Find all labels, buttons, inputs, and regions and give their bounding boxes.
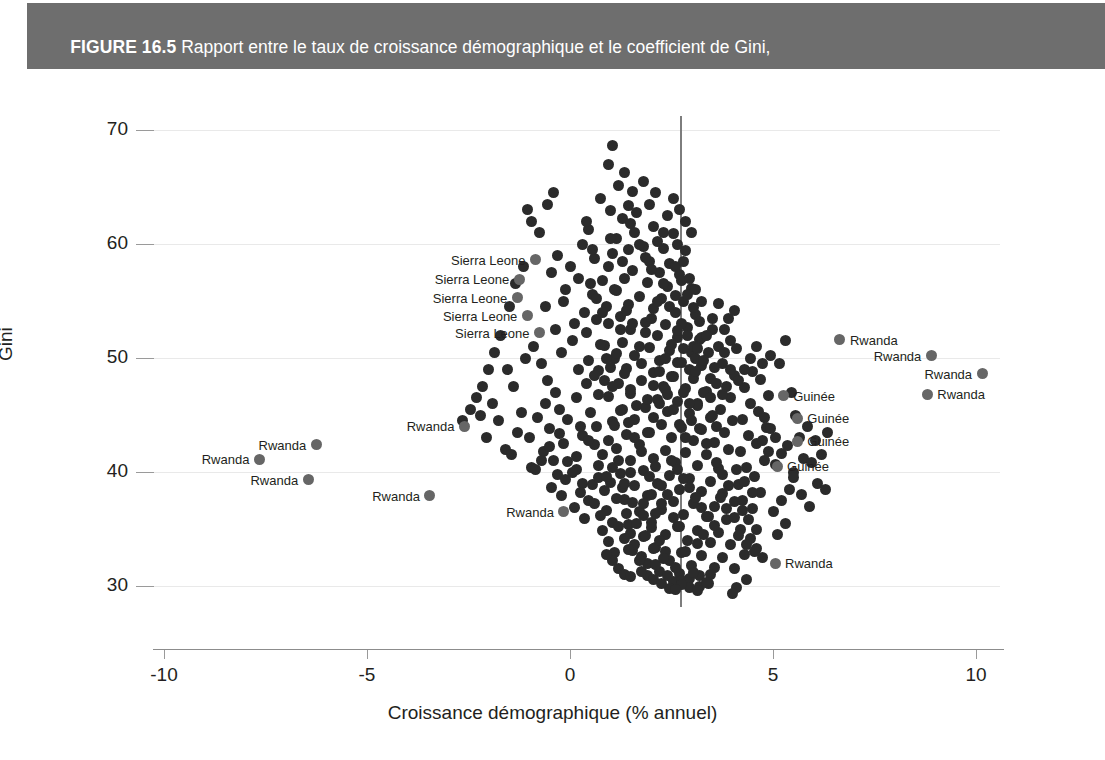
data-point xyxy=(680,546,691,557)
y-tick-label-60: 60 xyxy=(88,232,128,254)
data-point xyxy=(751,341,762,352)
data-point xyxy=(711,378,722,389)
data-point xyxy=(692,460,703,471)
data-point xyxy=(589,498,600,509)
data-point xyxy=(631,207,642,218)
data-point xyxy=(644,471,655,482)
data-point xyxy=(587,244,598,255)
data-point xyxy=(788,472,799,483)
data-point xyxy=(508,381,519,392)
data-point xyxy=(619,273,630,284)
data-point xyxy=(646,313,657,324)
data-point xyxy=(569,502,580,513)
data-point xyxy=(692,343,703,354)
data-point xyxy=(522,204,533,215)
data-point xyxy=(780,335,791,346)
x-tickmark-5 xyxy=(773,650,774,659)
data-point xyxy=(581,216,592,227)
data-point xyxy=(627,186,638,197)
data-point xyxy=(715,492,726,503)
data-point xyxy=(640,252,651,263)
data-point xyxy=(650,187,661,198)
data-point xyxy=(603,318,614,329)
data-point xyxy=(644,342,655,353)
data-point xyxy=(617,256,628,267)
data-point xyxy=(737,414,748,425)
data-point xyxy=(477,381,488,392)
highlighted-data-point xyxy=(534,327,545,338)
data-point xyxy=(595,193,606,204)
data-point xyxy=(475,410,486,421)
data-point xyxy=(696,550,707,561)
highlighted-data-point xyxy=(522,310,533,321)
data-point xyxy=(662,389,673,400)
data-point xyxy=(589,370,600,381)
data-point xyxy=(674,521,685,532)
data-point xyxy=(528,341,539,352)
data-point xyxy=(774,358,785,369)
x-tick-label-5: 5 xyxy=(768,664,779,686)
data-point xyxy=(506,449,517,460)
data-point xyxy=(690,284,701,295)
data-point xyxy=(636,446,647,457)
y-tick-label-50: 50 xyxy=(88,346,128,368)
data-point xyxy=(520,353,531,364)
data-point xyxy=(565,261,576,272)
data-point xyxy=(613,180,624,191)
data-point xyxy=(487,398,498,409)
data-point xyxy=(530,464,541,475)
data-point xyxy=(607,381,618,392)
figure-header-bar: FIGURE 16.5 Rapport entre le taux de cro… xyxy=(27,3,1105,69)
data-point xyxy=(796,489,807,500)
data-point xyxy=(780,518,791,529)
data-point xyxy=(597,307,608,318)
data-point xyxy=(680,216,691,227)
data-point xyxy=(595,339,606,350)
data-point xyxy=(652,236,663,247)
data-point xyxy=(603,261,614,272)
data-point xyxy=(650,508,661,519)
data-point xyxy=(731,343,742,354)
data-point xyxy=(660,319,671,330)
data-point xyxy=(605,233,616,244)
highlighted-data-point xyxy=(772,461,783,472)
scatter-plot: 3040506070 -10-50510 Sierra LeoneSierra … xyxy=(0,69,1105,760)
data-point xyxy=(678,256,689,267)
data-point xyxy=(593,460,604,471)
annotation-label: Guinée xyxy=(807,411,849,426)
annotation-label: Rwanda xyxy=(937,387,985,402)
data-point xyxy=(674,419,685,430)
x-tick-label--10: -10 xyxy=(150,664,177,686)
data-point xyxy=(717,389,728,400)
data-point xyxy=(654,535,665,546)
data-point xyxy=(567,335,578,346)
data-point xyxy=(629,480,640,491)
data-point xyxy=(603,536,614,547)
data-point xyxy=(638,498,649,509)
y-tickmark-70 xyxy=(136,130,154,131)
data-point xyxy=(581,327,592,338)
data-point xyxy=(701,449,712,460)
data-point xyxy=(546,267,557,278)
data-point xyxy=(721,503,732,514)
data-point xyxy=(585,407,596,418)
data-point xyxy=(763,390,774,401)
data-point xyxy=(757,358,768,369)
data-point xyxy=(658,227,669,238)
annotation-label: Rwanda xyxy=(202,452,250,467)
x-tick-label-0: 0 xyxy=(565,664,576,686)
data-point xyxy=(597,449,608,460)
data-point xyxy=(573,273,584,284)
data-point xyxy=(705,476,716,487)
data-point xyxy=(690,492,701,503)
gridline-y-30 xyxy=(153,586,1000,587)
y-tickmark-30 xyxy=(136,586,154,587)
annotation-label: Sierra Leone xyxy=(455,325,529,340)
data-point xyxy=(678,509,689,520)
data-point xyxy=(668,228,679,239)
data-point xyxy=(569,318,580,329)
data-point xyxy=(648,412,659,423)
data-point xyxy=(701,577,712,588)
data-point xyxy=(717,469,728,480)
data-point xyxy=(640,327,651,338)
